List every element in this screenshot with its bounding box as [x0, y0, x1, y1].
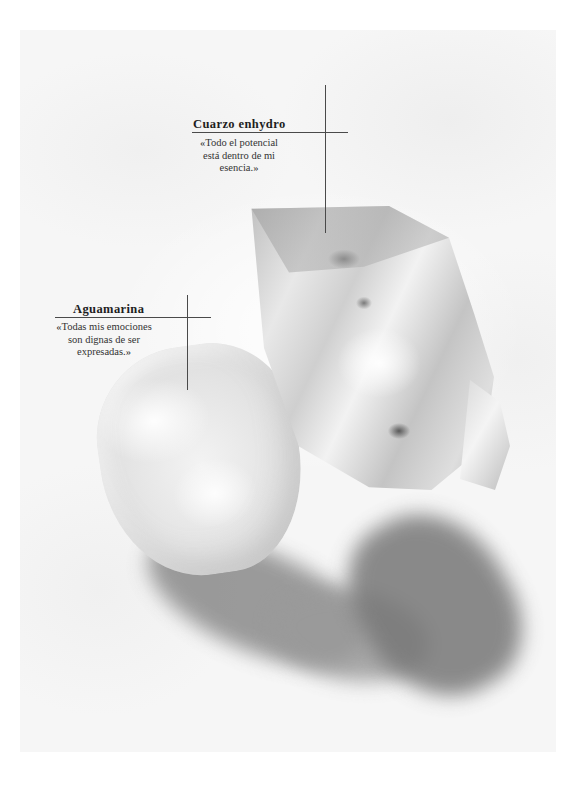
quote-line: «Todas mis emociones — [48, 321, 160, 334]
callout-quote: «Todas mis emociones son dignas de ser e… — [48, 321, 160, 359]
leader-line-vertical — [187, 295, 188, 390]
leader-line-horizontal — [192, 132, 348, 133]
callout-title: Cuarzo enhydro — [193, 117, 286, 132]
quote-line: esencia.» — [184, 162, 294, 175]
quote-line: son dignas de ser — [48, 334, 160, 347]
quote-line: está dentro de mi — [184, 150, 294, 163]
callout-quote: «Todo el potencial está dentro de mi ese… — [184, 137, 294, 175]
leader-line-horizontal — [55, 317, 211, 318]
leader-line-vertical — [325, 85, 326, 233]
quote-line: expresadas.» — [48, 346, 160, 359]
quote-line: «Todo el potencial — [184, 137, 294, 150]
callout-title: Aguamarina — [73, 302, 144, 317]
